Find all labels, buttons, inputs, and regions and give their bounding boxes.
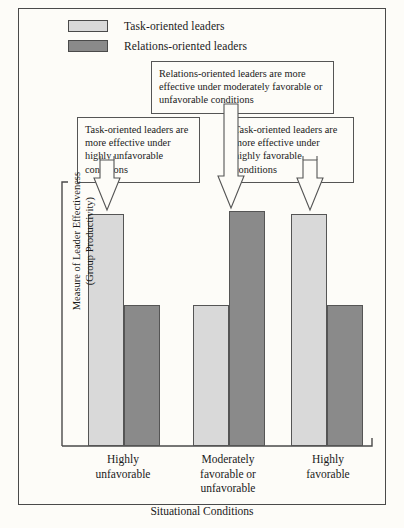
y-axis-label: Measure of Leader Effectiveness (Group P…: [70, 141, 96, 341]
plot-area: [62, 185, 372, 446]
callout-box-moderately-favorable: Relations-oriented leaders are more effe…: [151, 61, 334, 114]
callout-box-highly-favorable: Task-oriented leaders are more effective…: [226, 117, 354, 183]
legend-item-task-oriented: Task-oriented leaders: [68, 18, 247, 34]
bar-relations-oriented-moderately-favorable: [229, 211, 265, 446]
bar-relations-oriented-highly-unfavorable: [124, 305, 160, 446]
x-axis-title: Situational Conditions: [0, 505, 404, 517]
chart-legend: Task-oriented leaders Relations-oriented…: [68, 18, 247, 58]
x-tick-label-highly-favorable: Highly favorable: [273, 452, 383, 481]
legend-label-relations-oriented: Relations-oriented leaders: [124, 40, 247, 52]
bar-relations-oriented-highly-favorable: [327, 305, 363, 446]
figure-container: Task-oriented leaders Relations-oriented…: [0, 0, 404, 528]
legend-item-relations-oriented: Relations-oriented leaders: [68, 38, 247, 54]
x-tick-label-highly-unfavorable: Highly unfavorable: [68, 452, 178, 481]
bar-task-oriented-moderately-favorable: [193, 305, 229, 446]
x-tick-label-moderately-favorable: Moderately favorable or unfavorable: [173, 452, 283, 496]
legend-swatch-relations-oriented: [68, 40, 108, 52]
legend-label-task-oriented: Task-oriented leaders: [124, 20, 225, 32]
legend-swatch-task-oriented: [68, 20, 108, 32]
bar-task-oriented-highly-favorable: [291, 214, 327, 446]
